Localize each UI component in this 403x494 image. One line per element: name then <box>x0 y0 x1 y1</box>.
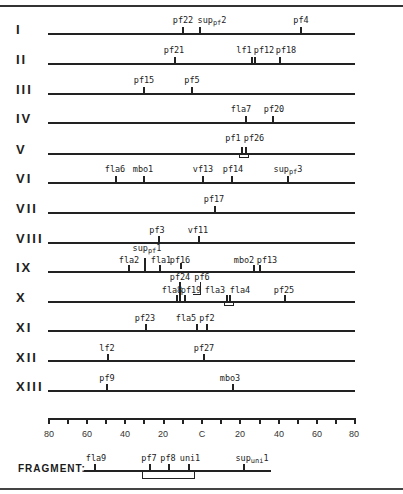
scale-label: 40 <box>274 429 284 439</box>
marker-label: fla7 <box>231 104 251 114</box>
scale-label: C <box>199 429 206 439</box>
marker-label: uni1 <box>180 453 200 463</box>
marker-label: supuni1 <box>235 453 268 465</box>
marker-tick <box>106 384 108 390</box>
chromosome-line <box>48 212 355 214</box>
marker-label: pf4 <box>293 15 308 25</box>
marker-tick <box>168 464 170 470</box>
marker-label: vf11 <box>188 225 208 235</box>
group-label: XIII <box>16 379 44 394</box>
cluster-bracket <box>239 153 249 158</box>
marker-label: suppf2 <box>198 15 227 27</box>
marker-tick <box>206 324 208 330</box>
frame-bottom-border <box>0 488 403 490</box>
scale-tick <box>86 418 88 424</box>
marker-tick <box>287 176 289 182</box>
scale-tick <box>278 418 280 424</box>
marker-label: pf5 <box>184 75 199 85</box>
cluster-bracket <box>224 301 234 306</box>
group-label: IX <box>16 260 32 275</box>
group-label: XII <box>16 350 38 365</box>
chromosome-line <box>48 301 355 303</box>
scale-tick <box>143 418 145 424</box>
scale-tick <box>335 418 337 424</box>
marker-tick <box>245 116 247 122</box>
chromosome-line <box>48 182 355 184</box>
marker-tick <box>176 295 178 301</box>
marker-tick <box>203 354 205 360</box>
marker-tick <box>145 324 147 330</box>
group-label: II <box>16 52 27 67</box>
scale-label: 40 <box>120 429 130 439</box>
scale-tick <box>105 418 107 424</box>
marker-label: pf26 <box>244 133 264 143</box>
marker-tick <box>259 265 261 271</box>
marker-tick <box>231 176 233 182</box>
marker-label: vf13 <box>193 164 213 174</box>
group-label: V <box>16 142 27 157</box>
marker-tick <box>144 258 146 271</box>
scale-label: 80 <box>44 429 54 439</box>
group-label: III <box>16 82 33 97</box>
marker-label: pf9 <box>99 373 114 383</box>
marker-label: mbo2 <box>234 255 254 265</box>
marker-tick <box>300 27 302 33</box>
scale-tick <box>124 418 126 424</box>
marker-label: suppf1 <box>133 243 162 255</box>
group-label: VI <box>16 171 32 186</box>
group-label: X <box>16 290 27 305</box>
fragment-label: FRAGMENT: <box>18 463 86 474</box>
scale-tick <box>259 418 261 424</box>
marker-label: pf25 <box>274 285 294 295</box>
group-label: XI <box>16 320 32 335</box>
marker-label: pf14 <box>223 164 243 174</box>
marker-label: mbo3 <box>220 373 240 383</box>
scale-label: 80 <box>349 429 359 439</box>
marker-label: pf20 <box>264 104 284 114</box>
chromosome-line <box>48 330 355 332</box>
marker-label: pf8 <box>160 453 175 463</box>
marker-tick <box>94 464 96 470</box>
marker-tick <box>174 57 176 63</box>
group-label: VII <box>16 201 38 216</box>
marker-label: pf27 <box>194 343 214 353</box>
marker-tick <box>253 265 255 271</box>
marker-label: mbo1 <box>133 164 153 174</box>
marker-tick <box>143 176 145 182</box>
group-label: VIII <box>16 231 44 246</box>
scale-tick <box>220 418 222 424</box>
scale-tick <box>163 418 165 424</box>
marker-tick <box>128 265 130 271</box>
marker-label: pf23 <box>135 313 155 323</box>
marker-tick <box>143 87 145 93</box>
marker-label: pf21 <box>164 45 184 55</box>
marker-label: pf2 <box>199 313 214 323</box>
marker-label: fla9 <box>86 453 106 463</box>
marker-label: pf3 <box>149 225 164 235</box>
group-label: IV <box>16 111 32 126</box>
marker-tick <box>182 27 184 33</box>
scale-tick <box>182 418 184 424</box>
marker-label: pf13 <box>257 255 277 265</box>
marker-tick <box>159 265 161 271</box>
marker-label: pf7 <box>141 453 156 463</box>
marker-tick <box>149 464 151 470</box>
marker-tick <box>107 354 109 360</box>
group-label: I <box>16 22 22 37</box>
scale-label: 20 <box>158 429 168 439</box>
chromosome-line <box>48 360 355 362</box>
frame-top-border <box>0 5 403 7</box>
scale-label: 60 <box>82 429 92 439</box>
marker-label: pf12 <box>254 45 274 55</box>
marker-tick <box>232 384 234 390</box>
scale-tick <box>297 418 299 424</box>
marker-label: fla4 <box>230 285 250 295</box>
marker-label: fla1 <box>151 255 171 265</box>
marker-tick <box>196 324 198 330</box>
marker-label: pf6 <box>194 272 209 282</box>
marker-label: pf1 <box>225 133 240 143</box>
marker-tick <box>199 27 201 33</box>
scale-tick <box>48 418 50 424</box>
marker-label: lf2 <box>99 343 114 353</box>
marker-tick <box>254 57 256 63</box>
